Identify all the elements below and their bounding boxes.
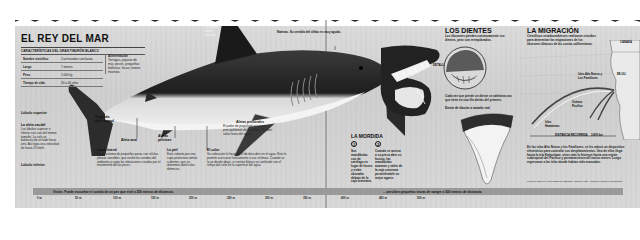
migration-title: LA MIGRACIÓN bbox=[527, 27, 579, 34]
facts-table: CARACTERÍSTICAS DEL GRAN TIBURÓN BLANCO … bbox=[21, 47, 145, 87]
pelvic-fins-label: Aletas pélvicas bbox=[158, 134, 174, 142]
migration-map bbox=[520, 40, 640, 140]
smell-text: ... perciben pequeñas trazas de sangre a… bbox=[383, 190, 482, 194]
teeth-title: LOS DIENTES bbox=[445, 27, 492, 34]
lateral-line-text: Es un sistema de pequeños poros con célu… bbox=[97, 153, 161, 168]
facts-row: Peso2.000 kg bbox=[21, 71, 103, 79]
distance-label: DISTANCIA RECORRIDA bbox=[555, 133, 588, 137]
tail-fin-text: Los lóbulos superior e inferior son casi… bbox=[21, 128, 59, 151]
map-label-canada: CANADÁ bbox=[620, 40, 632, 44]
jaw-detail-circle bbox=[443, 46, 487, 90]
shark-illustration bbox=[35, 26, 405, 156]
sight-text: Visión. Puede escuchar el sonido de un p… bbox=[53, 190, 174, 194]
distance-bar: Visión. Puede escuchar el sonido de un p… bbox=[33, 188, 623, 195]
anal-fin-label: Aleta anal bbox=[121, 138, 137, 142]
infographic-page: EL REY DEL MAR CARACTERÍSTICAS DEL GRAN … bbox=[15, 20, 640, 208]
distance-value: 3.800 km bbox=[591, 133, 603, 137]
page-title: EL REY DEL MAR bbox=[21, 33, 109, 44]
teeth-intro: Los tiburones pierden continuamente sus … bbox=[445, 35, 513, 43]
nostrils-label: Narinas. Su sentido del olfato es muy ag… bbox=[277, 30, 341, 34]
teeth-replace-text: Cada vez que pierde un diente se adelant… bbox=[445, 95, 517, 103]
lower-lobe-label: Lóbulo inferior bbox=[21, 163, 45, 167]
facts-row: Largo7 metros bbox=[21, 63, 103, 71]
map-label-hawaii: Islas Hawaianas bbox=[545, 120, 565, 128]
migration-body: En las islas Año Nuevo y los Farallones,… bbox=[527, 146, 625, 165]
distance-scale: 0 m 50 m 100 m 150 m 200 m 250 m 300 m 3… bbox=[33, 196, 623, 202]
pectoral-fins-text: El poder de propulsión proviene principa… bbox=[223, 125, 279, 136]
upper-lobe-label: Lóbulo superior bbox=[21, 111, 47, 115]
bite-title: LA MORDIDA bbox=[351, 133, 383, 139]
second-dorsal-label: Segunda aleta dorsal bbox=[95, 115, 117, 123]
shark-open-mouth-illustration bbox=[377, 44, 449, 120]
bite-step-2-number: 2 bbox=[375, 141, 381, 147]
bite-step-2-text: Cuando se acerca a su presa abre su hoci… bbox=[375, 150, 403, 180]
skin-text: Está cubierta por una capa protectora si… bbox=[167, 153, 199, 172]
map-label-ocean: Océano Pacífico bbox=[572, 100, 588, 108]
map-label-islands: Islas Año Nuevo y Los Farallones bbox=[578, 72, 602, 80]
tooth-illustration bbox=[459, 110, 515, 188]
map-label-usa: EE.UU. bbox=[617, 72, 626, 76]
facts-row: Tiempo de vida30 a 40 años bbox=[21, 79, 103, 87]
color-text: Su coloración lo hace difícil de descubr… bbox=[207, 153, 287, 168]
first-dorsal-label: Primera aleta dorsal bbox=[205, 25, 223, 37]
bite-step-1-number: 1 bbox=[351, 141, 357, 147]
bite-step-1-text: Sus mandíbulas son de cartílago en lugar… bbox=[351, 150, 373, 184]
migration-credits: Fuentes: Science, Universidad de Stanfor… bbox=[527, 180, 625, 184]
facts-row: Nombre científicoCarcharodon carcharias bbox=[21, 55, 103, 63]
facts-food: Alimentación Tortugas, pájaros de mar, p… bbox=[105, 54, 143, 74]
